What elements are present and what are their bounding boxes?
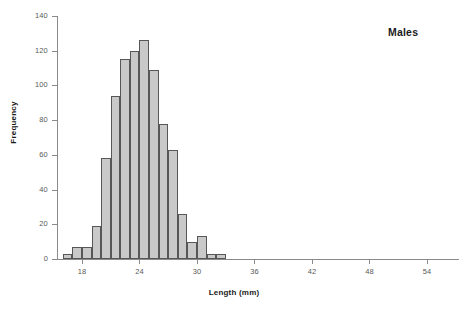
y-tick-label: 60 (39, 150, 48, 159)
histogram-bar (197, 236, 207, 259)
x-tick-mark (197, 259, 198, 264)
y-tick-mark (52, 259, 57, 260)
histogram-bar (187, 242, 197, 259)
x-tick-mark (427, 259, 428, 264)
histogram-bar (111, 96, 121, 259)
histogram-bar (130, 51, 140, 259)
histogram-bar (159, 124, 169, 259)
y-tick-label: 100 (35, 80, 48, 89)
histogram-bar (92, 226, 102, 259)
y-tick-label: 0 (44, 254, 48, 263)
histogram-bar (101, 158, 111, 259)
histogram-chart: 020406080100120140 18243036424854 Males … (0, 0, 468, 315)
x-tick-mark (139, 259, 140, 264)
x-tick-label: 54 (415, 267, 439, 276)
histogram-bar (168, 150, 178, 259)
y-axis-title: Frequency (9, 88, 18, 158)
x-tick-mark (312, 259, 313, 264)
x-axis-title: Length (mm) (0, 288, 468, 297)
histogram-bar (178, 214, 188, 259)
x-tick-mark (369, 259, 370, 264)
series-title: Males (388, 26, 418, 38)
histogram-bar (82, 247, 92, 259)
x-tick-label: 48 (357, 267, 381, 276)
histogram-bars (57, 16, 459, 259)
x-axis-line (57, 259, 459, 260)
y-tick-label: 80 (39, 115, 48, 124)
histogram-bar (72, 247, 82, 259)
histogram-bar (216, 254, 226, 259)
x-tick-mark (82, 259, 83, 264)
x-tick-label: 30 (185, 267, 209, 276)
y-tick-label: 120 (35, 46, 48, 55)
histogram-bar (149, 70, 159, 259)
y-tick-label: 40 (39, 185, 48, 194)
histogram-bar (207, 254, 217, 259)
y-tick-label: 140 (35, 11, 48, 20)
x-tick-label: 36 (242, 267, 266, 276)
x-tick-label: 24 (127, 267, 151, 276)
x-tick-mark (254, 259, 255, 264)
histogram-bar (139, 40, 149, 259)
histogram-bar (63, 254, 73, 259)
histogram-bar (120, 59, 130, 259)
x-tick-label: 42 (300, 267, 324, 276)
x-tick-label: 18 (70, 267, 94, 276)
y-tick-label: 20 (39, 219, 48, 228)
